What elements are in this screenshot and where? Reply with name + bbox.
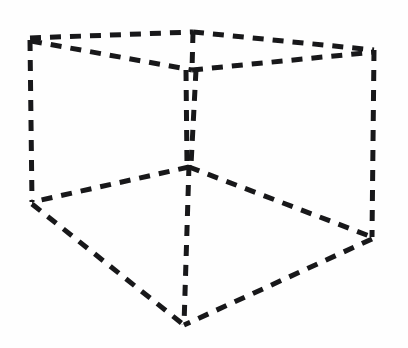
vertical-center-right-edge <box>191 70 196 165</box>
vertical-center-left-edge <box>186 70 187 165</box>
dashed-cube-diagram <box>0 0 408 348</box>
figure-canvas <box>0 0 408 348</box>
vertical-back-center-edge <box>192 32 193 70</box>
top-front-left-edge <box>31 41 192 70</box>
vertical-front-edge <box>184 165 189 325</box>
floor-back-left-edge <box>32 167 189 202</box>
vertical-right-edge <box>372 50 374 237</box>
top-back-right-edge <box>193 32 374 50</box>
cube-edge-group <box>30 32 374 325</box>
floor-back-right-edge <box>189 167 372 237</box>
top-front-right-edge <box>192 52 374 70</box>
top-back-left-edge <box>30 32 193 38</box>
vertical-left-edge <box>30 40 32 202</box>
floor-front-right-edge <box>184 239 372 325</box>
floor-front-left-edge <box>32 204 184 325</box>
